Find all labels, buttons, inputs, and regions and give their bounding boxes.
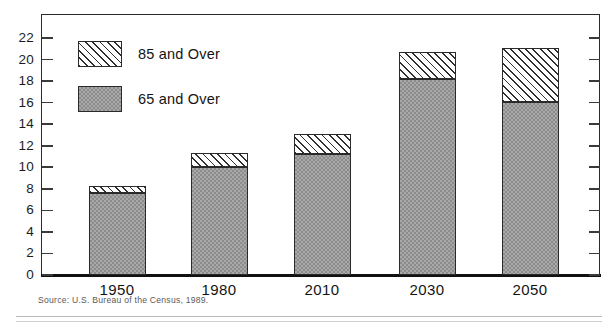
- y-tick-mark: [42, 274, 53, 276]
- y-tick-mark: [42, 210, 53, 212]
- footer-rule-top: [16, 316, 602, 317]
- y-tick-label: 2: [8, 246, 34, 260]
- y-tick-mark-right: [589, 59, 600, 61]
- bar-segment-85-and-over: [399, 52, 456, 79]
- bar-segment-65-and-over: [502, 102, 559, 275]
- y-tick-mark: [42, 166, 53, 168]
- y-tick-label: 10: [8, 160, 34, 174]
- legend-swatch-65-and-over: [78, 86, 122, 112]
- source-note: Source: U.S. Bureau of the Census, 1989.: [38, 295, 209, 305]
- bar-2050: [502, 48, 559, 275]
- y-tick-mark-right: [589, 37, 600, 39]
- y-tick-label: 0: [8, 268, 34, 282]
- bar-segment-85-and-over: [191, 153, 248, 167]
- y-tick-mark-right: [589, 210, 600, 212]
- bar-1950: [89, 186, 146, 275]
- y-tick-mark: [42, 231, 53, 233]
- y-tick-label: 18: [8, 74, 34, 88]
- y-tick-mark-right: [589, 166, 600, 168]
- y-tick-mark: [42, 80, 53, 82]
- x-tick-label-2010: 2010: [282, 281, 362, 298]
- bar-1980: [191, 153, 248, 275]
- y-tick-label: 8: [8, 182, 34, 196]
- bar-segment-65-and-over: [191, 167, 248, 275]
- footer-rule-bottom: [16, 321, 602, 322]
- y-tick-mark-right: [589, 188, 600, 190]
- x-tick-label-2050: 2050: [490, 281, 570, 298]
- bar-segment-65-and-over: [89, 193, 146, 275]
- bar-segment-65-and-over: [399, 79, 456, 275]
- x-tick-label-2030: 2030: [387, 281, 467, 298]
- y-tick-label: 12: [8, 139, 34, 153]
- y-tick-mark: [42, 145, 53, 147]
- y-tick-label: 16: [8, 96, 34, 110]
- bar-segment-85-and-over: [89, 186, 146, 194]
- y-tick-mark: [42, 102, 53, 104]
- y-tick-mark: [42, 59, 53, 61]
- y-tick-label: 4: [8, 225, 34, 239]
- y-tick-mark: [42, 37, 53, 39]
- y-tick-label: 6: [8, 203, 34, 217]
- legend-label-85-and-over: 85 and Over: [138, 46, 220, 62]
- chart-figure: 0246810121416182022 19501980201020302050…: [0, 0, 615, 332]
- bar-segment-65-and-over: [294, 154, 351, 275]
- y-tick-mark-right: [589, 231, 600, 233]
- y-tick-mark-right: [589, 274, 600, 276]
- y-tick-label: 20: [8, 53, 34, 67]
- y-tick-mark: [42, 188, 53, 190]
- bar-segment-85-and-over: [502, 48, 559, 102]
- bar-segment-85-and-over: [294, 134, 351, 154]
- bar-2010: [294, 134, 351, 275]
- legend-swatch-85-and-over: [78, 41, 122, 67]
- y-tick-mark: [42, 253, 53, 255]
- y-tick-mark-right: [589, 80, 600, 82]
- y-tick-mark-right: [589, 253, 600, 255]
- y-tick-mark-right: [589, 123, 600, 125]
- y-tick-mark-right: [589, 145, 600, 147]
- y-tick-label: 22: [8, 31, 34, 45]
- y-tick-mark-right: [589, 102, 600, 104]
- y-tick-mark: [42, 123, 53, 125]
- legend-label-65-and-over: 65 and Over: [138, 91, 220, 107]
- bar-2030: [399, 52, 456, 275]
- y-tick-label: 14: [8, 117, 34, 131]
